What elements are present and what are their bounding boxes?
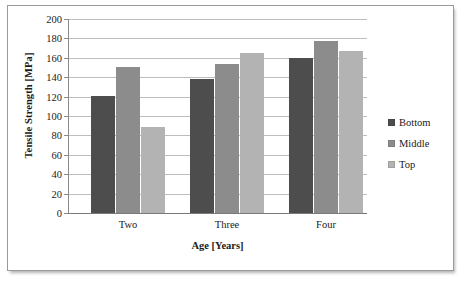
legend: Bottom Middle Top: [388, 115, 458, 178]
legend-item-top[interactable]: Top: [388, 157, 458, 172]
bar-middle-two: [116, 67, 140, 213]
legend-swatch-icon: [388, 161, 395, 168]
screenshot-root: Tensile Strength [MPa] 200 180 160 140 1…: [0, 0, 463, 284]
bar-bottom-four: [289, 58, 313, 213]
y-axis-line: [68, 19, 69, 213]
x-axis-tick-labels: Two Three Four: [68, 219, 367, 235]
bar-top-three: [240, 53, 264, 213]
y-tick-label: 180: [16, 33, 62, 44]
legend-swatch-icon: [388, 140, 395, 147]
bar-top-four: [339, 51, 363, 213]
y-tick-mark: [64, 77, 68, 78]
bar-bottom-three: [190, 79, 214, 213]
y-tick-mark: [64, 135, 68, 136]
y-tick-mark: [64, 194, 68, 195]
y-tick-label: 40: [16, 169, 62, 180]
y-tick-mark: [64, 97, 68, 98]
bar-chart: Tensile Strength [MPa] 200 180 160 140 1…: [0, 0, 463, 284]
y-tick-mark: [64, 58, 68, 59]
plot-area: [68, 19, 367, 213]
legend-item-middle[interactable]: Middle: [388, 136, 458, 151]
y-tick-mark: [64, 213, 68, 214]
x-axis-line: [68, 213, 367, 214]
y-tick-mark: [64, 174, 68, 175]
y-tick-mark: [64, 19, 68, 20]
legend-swatch-icon: [388, 119, 395, 126]
legend-label-top: Top: [399, 159, 415, 170]
y-tick-label: 20: [16, 188, 62, 199]
y-tick-label: 200: [16, 14, 62, 25]
bar-group: [91, 19, 165, 213]
y-tick-mark: [64, 116, 68, 117]
bar-middle-three: [215, 64, 239, 213]
y-tick-mark: [64, 155, 68, 156]
y-tick-label: 140: [16, 72, 62, 83]
legend-item-bottom[interactable]: Bottom: [388, 115, 458, 130]
y-axis-tick-labels: 200 180 160 140 120 100 80 60 40 20 0: [14, 19, 62, 213]
legend-label-bottom: Bottom: [399, 117, 431, 128]
bar-top-two: [141, 127, 165, 213]
x-tick-label-two: Two: [83, 219, 173, 230]
y-tick-label: 100: [16, 111, 62, 122]
bar-bottom-two: [91, 96, 115, 213]
y-tick-mark: [64, 38, 68, 39]
bar-middle-four: [314, 41, 338, 213]
y-tick-label: 60: [16, 149, 62, 160]
legend-label-middle: Middle: [399, 138, 429, 149]
x-tick-label-three: Three: [182, 219, 272, 230]
y-tick-label: 80: [16, 130, 62, 141]
y-tick-label: 0: [16, 208, 62, 219]
bar-group: [289, 19, 363, 213]
bar-group: [190, 19, 264, 213]
x-axis-title: Age [Years]: [68, 240, 367, 251]
x-tick-label-four: Four: [281, 219, 371, 230]
y-tick-label: 160: [16, 52, 62, 63]
y-tick-label: 120: [16, 91, 62, 102]
